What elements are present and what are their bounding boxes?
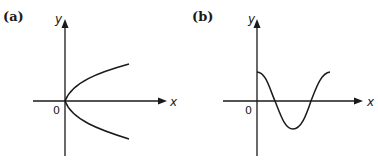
panel-b-x-label: x	[366, 95, 375, 109]
panel-a-y-label: y	[54, 12, 63, 26]
panel-a-x-label: x	[169, 95, 178, 109]
panel-a-label: (a)	[3, 9, 24, 24]
panel-a: (a) y x 0	[3, 9, 178, 156]
panel-b-origin-label: 0	[245, 104, 252, 117]
panel-a-y-arrow-icon	[62, 19, 69, 28]
figure: (a) y x 0 (b) y x 0	[0, 0, 378, 164]
panel-a-origin-label: 0	[53, 104, 60, 117]
panel-b-y-label: y	[247, 12, 256, 26]
panel-b-x-arrow-icon	[354, 98, 363, 105]
panel-b-label: (b)	[192, 9, 213, 24]
panel-b: (b) y x 0	[192, 9, 375, 156]
panel-a-x-arrow-icon	[158, 98, 167, 105]
